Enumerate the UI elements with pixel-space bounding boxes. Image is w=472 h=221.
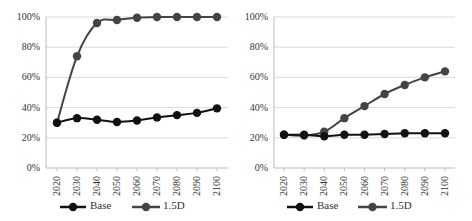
data-point-marker (421, 129, 429, 137)
y-tick-label: 40% (234, 102, 268, 113)
data-point-marker (340, 114, 348, 122)
x-tick-label: 2090 (419, 176, 430, 196)
legend-marker-icon (296, 203, 304, 211)
right-line-chart: 0%20%40%60%80%100%2020203020402050206020… (0, 0, 472, 221)
y-tick-label: 100% (234, 11, 268, 22)
y-tick-label: 60% (234, 71, 268, 82)
data-point-marker (380, 130, 388, 138)
x-tick-label: 2050 (338, 176, 349, 196)
data-point-marker (401, 81, 409, 89)
x-tick-label: 2040 (318, 176, 329, 196)
x-tick-label: 2020 (278, 176, 289, 196)
data-point-marker (280, 131, 288, 139)
data-point-marker (441, 67, 449, 75)
x-tick-label: 2100 (439, 176, 450, 196)
data-point-marker (421, 73, 429, 81)
x-tick-label: 2080 (399, 176, 410, 196)
data-point-marker (300, 131, 308, 139)
data-point-marker (380, 90, 388, 98)
x-tick-label: 2030 (298, 176, 309, 196)
legend-label: 1.5D (390, 199, 412, 211)
y-tick-label: 20% (234, 132, 268, 143)
legend-label: Base (317, 199, 338, 211)
data-point-marker (320, 132, 328, 140)
data-point-marker (360, 131, 368, 139)
data-point-marker (360, 102, 368, 110)
y-tick-label: 0% (234, 162, 268, 173)
data-point-marker (340, 131, 348, 139)
data-point-marker (401, 129, 409, 137)
data-point-marker (441, 129, 449, 137)
x-tick-label: 2060 (359, 176, 370, 196)
legend-marker-icon (368, 203, 376, 211)
y-tick-label: 80% (234, 41, 268, 52)
x-tick-label: 2070 (379, 176, 390, 196)
